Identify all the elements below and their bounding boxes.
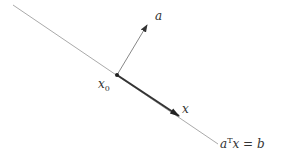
normal-vector-label: a [155,9,162,23]
point-x0 [115,73,119,77]
direction-vector-label: x [182,102,189,116]
point-x0-label: x0 [98,77,110,93]
normal-vector-arrow [117,25,147,75]
hyperplane-equation-label: aTx = b [220,136,265,151]
direction-vector-arrow [117,75,179,116]
hyperplane-diagram: a x0 x aTx = b [0,0,285,154]
